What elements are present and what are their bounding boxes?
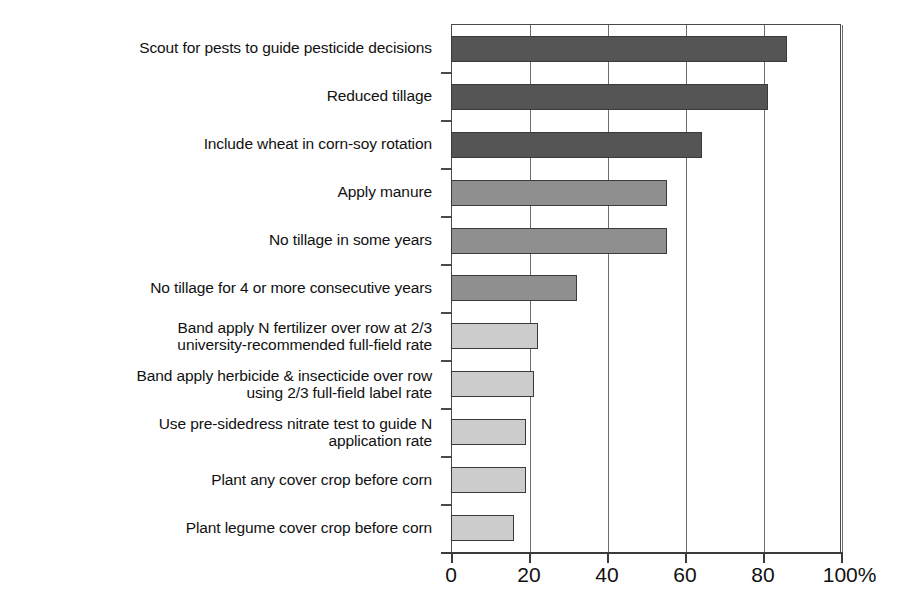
bar-series [452,25,840,552]
bar[interactable] [451,275,577,301]
category-label: Plant legume cover crop before corn [0,504,440,552]
x-axis-tick [451,552,453,563]
category-label: Reduced tillage [0,72,440,120]
x-axis-tick-label: 80 [751,563,774,587]
x-axis-tick-labels: 020406080100% [0,563,904,597]
bar-slot [452,360,840,408]
x-axis-tick-label: 100% [823,563,877,587]
category-label-column: Scout for pests to guide pesticide decis… [0,24,440,552]
bar[interactable] [451,323,538,349]
bar-slot [452,504,840,552]
bar-slot [452,265,840,313]
bar-slot [452,73,840,121]
bar[interactable] [451,36,787,62]
category-label: Band apply herbicide & insecticide over … [0,360,440,408]
x-axis-tick [685,552,687,563]
x-axis-tick-label: 20 [517,563,540,587]
gridline [842,25,843,552]
plot-area [451,24,841,552]
bar-chart: Scout for pests to guide pesticide decis… [0,0,904,606]
category-label: Apply manure [0,168,440,216]
category-label: No tillage for 4 or more consecutive yea… [0,264,440,312]
category-label: Include wheat in corn-soy rotation [0,120,440,168]
bar-slot [452,408,840,456]
x-axis-tick [607,552,609,563]
category-label: Plant any cover crop before corn [0,456,440,504]
bar[interactable] [451,84,768,110]
x-axis-tick [763,552,765,563]
x-axis-tick-label: 60 [673,563,696,587]
category-label: No tillage in some years [0,216,440,264]
bar-slot [452,456,840,504]
bar-slot [452,169,840,217]
category-label: Scout for pests to guide pesticide decis… [0,24,440,72]
category-label: Use pre-sidedress nitrate test to guide … [0,408,440,456]
category-label: Band apply N fertilizer over row at 2/3 … [0,312,440,360]
bar-slot [452,312,840,360]
bar-slot [452,217,840,265]
bar[interactable] [451,228,667,254]
bar-slot [452,121,840,169]
bar[interactable] [451,467,526,493]
bar[interactable] [451,371,534,397]
x-axis-tick-label: 40 [595,563,618,587]
bar[interactable] [451,132,702,158]
x-axis-tick [841,552,843,563]
bar[interactable] [451,515,514,541]
bar-slot [452,25,840,73]
x-axis-tick-label: 0 [445,563,457,587]
bar[interactable] [451,180,667,206]
x-axis-tick [529,552,531,563]
bar[interactable] [451,419,526,445]
